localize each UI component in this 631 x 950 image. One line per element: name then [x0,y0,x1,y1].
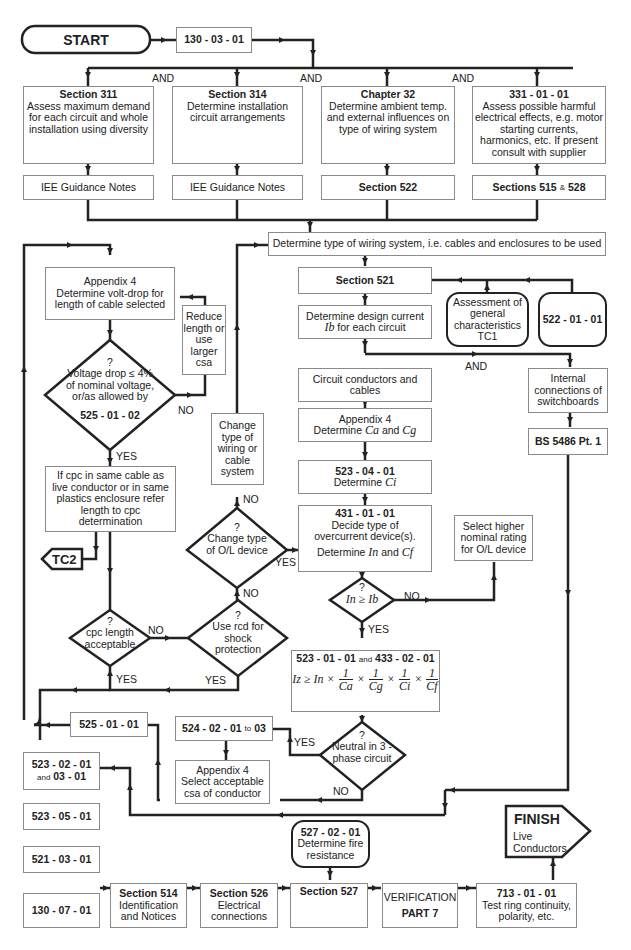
section-521-box: Section 521 [298,267,432,294]
start-terminal: START [22,32,150,48]
decision-in-ib-no: NO [404,590,420,602]
section-311-box: Section 311 Assess maximum demand for ea… [23,86,154,164]
decision-rcd-no: NO [243,587,259,599]
cf-symbol: Cf [402,545,413,559]
section-311-text: Assess maximum demand for each circuit a… [27,100,150,135]
reg-331-01-01-text: Assess possible harmful electrical effec… [475,100,603,158]
decision-rcd-text: Use rcd for shock protection [203,621,273,656]
fraction-cf: 1Cf [426,668,437,692]
reg-331-ref: Sections 515 & 528 [472,175,606,200]
reg-331-ref-amp: & [560,182,565,194]
decision-cpc-text: cpc length acceptable [75,627,145,650]
decision-ol-yes: YES [275,556,296,568]
decision-neutral-yes: YES [294,736,315,748]
section-527-box: Section 527 [290,883,368,928]
and-label-1: AND [152,72,174,84]
ca-symbol: Ca [365,423,379,437]
and-label-2: AND [300,72,322,84]
and-text: and [359,655,372,664]
verification-part: PART 7 [402,908,439,920]
wiring-system-box: Determine type of wiring system, i.e. ca… [268,232,606,256]
reg-130-07-01-box: 130 - 07 - 01 [23,893,100,928]
appendix4-ca-cg-box: Appendix 4 Determine Ca and Cg [298,408,432,442]
fraction-ci: 1Ci [399,668,410,692]
chapter-32-ref: Section 522 [321,175,455,200]
to-text: to [245,723,252,735]
reg-431-01-01-line: Determine In and Cf [299,547,431,559]
reg-523-02-01-line2: and 03 - 01 [37,771,86,784]
numerator: 1 [399,668,410,680]
chapter-32-box: Chapter 32 Determine ambient temp. and e… [321,86,455,164]
decision-cpc-no: NO [148,624,164,636]
formula-lhs: Iz ≥ In × [292,671,334,685]
internal-connections-box: Internal connections of switchboards [528,368,608,413]
decision-voltage-no: NO [178,404,194,416]
denominator-cg: Cg [369,680,383,692]
reg-431-01-01-box: 431 - 01 - 01 Decide type of overcurrent… [298,505,432,572]
section-314-ref: IEE Guidance Notes [172,175,303,200]
reg-524-a: 524 - 02 - 01 [182,723,242,735]
ci-symbol: Ci [385,475,396,489]
denominator-cf: Cf [426,680,437,692]
decision-ol-no: NO [243,493,259,505]
reg-331-ref-b: 528 [568,182,586,194]
and-label-3: AND [452,72,474,84]
decision-voltage-ref: 525 - 01 - 02 [65,410,155,422]
reg-713-01-01-box: 713 - 01 - 01 Test ring continuity, pola… [476,883,577,928]
section-526-box: Section 526 Electrical connections [200,883,278,928]
design-current-text2: for each circuit [337,321,405,333]
reg-523-03-01: 03 - 01 [53,770,86,782]
formula-box: 523 - 01 - 01 and 433 - 02 - 01 Iz ≥ In … [291,650,440,712]
decision-cpc-yes: YES [116,673,137,685]
section-526-text: Electrical connections [201,900,277,923]
reg-523-04-01-box: 523 - 04 - 01 Determine Ci [298,460,432,494]
tc2-tag: TC2 [52,552,77,567]
formula-heading: 523 - 01 - 01 and 433 - 02 - 01 [292,653,439,666]
reg-527-02-01-box: 527 - 02 - 01 Determine fire resistance [291,820,370,868]
decision-voltage-yes: YES [116,450,137,462]
reg-431-01-01-heading: 431 - 01 - 01 [299,508,431,520]
appendix4-ca-cg-line: Determine Ca and Cg [314,425,417,437]
cg-symbol: Cg [402,423,416,437]
reg-431-01-01-text: Decide type of overcurrent device(s). [299,520,431,543]
section-311-ref: IEE Guidance Notes [23,175,154,200]
and-text: and [382,424,400,436]
decision-neutral-text: Neutral in 3 - phase circuit [328,741,396,764]
decision-neutral-no: NO [333,785,349,797]
verification-box: VERIFICATION PART 7 [382,883,458,928]
numerator: 1 [339,668,353,680]
numerator: 1 [426,668,437,680]
numerator: 1 [369,668,383,680]
reg-331-ref-a: Sections 515 [492,182,556,194]
denominator-ca: Ca [339,680,353,692]
determine-text: Determine [317,546,365,558]
assessment-tc1-box: Assessment of general characteristics TC… [446,292,529,347]
times: × [414,671,422,685]
finish-text: Live Conductors [513,831,563,854]
times: × [387,671,395,685]
section-514-text: Identification and Notices [111,900,186,923]
times: × [357,671,365,685]
section-514-box: Section 514 Identification and Notices [110,883,187,928]
section-314-text: Determine installation circuit arrangeme… [187,100,288,124]
reg-527-02-01-text: Determine fire resistance [293,838,368,861]
decision-voltage-text: Voltage drop ≤ 4% of nominal voltage, or… [65,368,155,403]
and-text: and [381,546,399,558]
reg-523-01-01: 523 - 01 - 01 [296,652,356,664]
reg-523-05-01-box: 523 - 05 - 01 [23,803,100,830]
reduce-length-box: Reduce length or use larger csa [182,305,226,375]
design-current-box: Determine design current Ib for each cir… [298,305,432,339]
bs-5486-box: BS 5486 Pt. 1 [528,428,608,455]
fraction-cg: 1Cg [369,668,383,692]
reg-433-02-01: 433 - 02 - 01 [375,652,435,664]
decision-in-ib-expr: In ≥ Ib [330,594,394,606]
finish-label: FINISH [514,811,560,827]
in-symbol: In [368,545,378,559]
determine-text: Determine [314,424,362,436]
appendix4-csa-box: Appendix 4 Select acceptable csa of cond… [175,760,270,804]
verification-text: VERIFICATION [384,892,457,904]
reg-524-b: 03 [254,723,266,735]
appendix4-voltdrop-text: Determine volt-drop for length of cable … [46,288,174,311]
decision-in-ib-yes: YES [368,623,389,635]
ib-symbol: Ib [324,320,334,334]
